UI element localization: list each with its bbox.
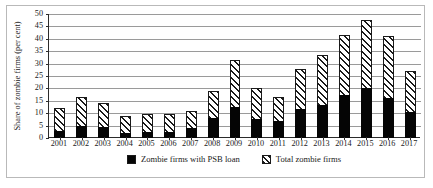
bar-slot — [273, 14, 284, 138]
y-axis-tick — [46, 26, 49, 27]
legend-swatch-solid-icon — [127, 155, 136, 164]
legend-label: Total zombie firms — [276, 155, 341, 164]
chart-legend: Zombie firms with PSB loanTotal zombie f… — [48, 155, 420, 164]
y-axis-tick — [46, 64, 49, 65]
bar-psb-loan-zombie-firms — [295, 109, 306, 138]
y-axis-tick-label: 30 — [35, 59, 43, 67]
bar-psb-loan-zombie-firms — [273, 121, 284, 138]
y-axis-tick-label: 40 — [35, 35, 43, 43]
bar-psb-loan-zombie-firms — [339, 95, 350, 138]
y-axis-tick-label: 35 — [35, 47, 43, 55]
bar-slot — [208, 14, 219, 138]
x-axis-tick-label: 2004 — [114, 140, 136, 148]
bar-slot — [251, 14, 262, 138]
bar-slot — [383, 14, 394, 138]
y-axis-tick-label: 0 — [39, 134, 43, 142]
bar-psb-loan-zombie-firms — [317, 105, 328, 138]
x-axis-tick-label: 2003 — [92, 140, 114, 148]
y-axis-tick — [46, 39, 49, 40]
y-axis-tick-label: 10 — [35, 109, 43, 117]
y-axis-tick — [46, 113, 49, 114]
y-axis-tick-label: 50 — [35, 10, 43, 18]
x-axis-tick-label: 2001 — [48, 140, 70, 148]
x-axis-tick-label: 2008 — [201, 140, 223, 148]
bar-slot — [295, 14, 306, 138]
chart-figure: Share of zombie firms (per cent) 0510152… — [0, 0, 433, 188]
bar-slot — [142, 14, 153, 138]
legend-item: Zombie firms with PSB loan — [127, 155, 240, 164]
x-axis-tick-label: 2009 — [223, 140, 245, 148]
x-axis-tick-label: 2002 — [70, 140, 92, 148]
x-axis-tick-label: 2005 — [136, 140, 158, 148]
x-axis-tick-label: 2013 — [311, 140, 333, 148]
plot-area — [48, 14, 420, 138]
bar-psb-loan-zombie-firms — [251, 119, 262, 138]
x-axis-tick-label: 2010 — [245, 140, 267, 148]
x-axis-tick-label: 2014 — [332, 140, 354, 148]
bar-slot — [230, 14, 241, 138]
bar-slot — [98, 14, 109, 138]
y-axis-tick — [46, 51, 49, 52]
legend-item: Total zombie firms — [262, 155, 341, 164]
y-axis-tick — [46, 101, 49, 102]
y-axis-tick — [46, 126, 49, 127]
y-axis-tick — [46, 88, 49, 89]
bar-psb-loan-zombie-firms — [208, 118, 219, 138]
bar-psb-loan-zombie-firms — [383, 98, 394, 138]
bar-slot — [361, 14, 372, 138]
bar-slot — [405, 14, 416, 138]
y-axis-tick — [46, 138, 49, 139]
bar-psb-loan-zombie-firms — [230, 107, 241, 138]
bar-psb-loan-zombie-firms — [361, 88, 372, 138]
y-axis-title: Share of zombie firms (per cent) — [11, 14, 25, 138]
bar-slot — [54, 14, 65, 138]
y-axis-tick-label: 25 — [35, 72, 43, 80]
y-axis-tick-label: 5 — [39, 121, 43, 129]
plot-wrapper: 05101520253035404550 2001200220032004200… — [48, 14, 420, 138]
x-axis-tick-label: 2016 — [376, 140, 398, 148]
bar-slot — [317, 14, 328, 138]
bar-slot — [164, 14, 175, 138]
y-axis-tick-label: 20 — [35, 84, 43, 92]
bar-psb-loan-zombie-firms — [405, 112, 416, 138]
x-axis-tick-label: 2011 — [267, 140, 289, 148]
y-axis-tick — [46, 76, 49, 77]
x-axis-tick-label: 2017 — [398, 140, 420, 148]
y-axis-tick-label: 15 — [35, 97, 43, 105]
y-axis-tick — [46, 14, 49, 15]
bar-group — [49, 14, 421, 138]
legend-swatch-hatched-icon — [262, 155, 271, 164]
x-axis-tick-label: 2007 — [179, 140, 201, 148]
bar-slot — [76, 14, 87, 138]
bar-slot — [120, 14, 131, 138]
x-axis-tick-label: 2012 — [289, 140, 311, 148]
legend-label: Zombie firms with PSB loan — [141, 155, 240, 164]
x-axis-tick-label: 2006 — [157, 140, 179, 148]
bar-slot — [186, 14, 197, 138]
x-axis-tick-label: 2015 — [354, 140, 376, 148]
bar-slot — [339, 14, 350, 138]
y-axis-tick-label: 45 — [35, 22, 43, 30]
